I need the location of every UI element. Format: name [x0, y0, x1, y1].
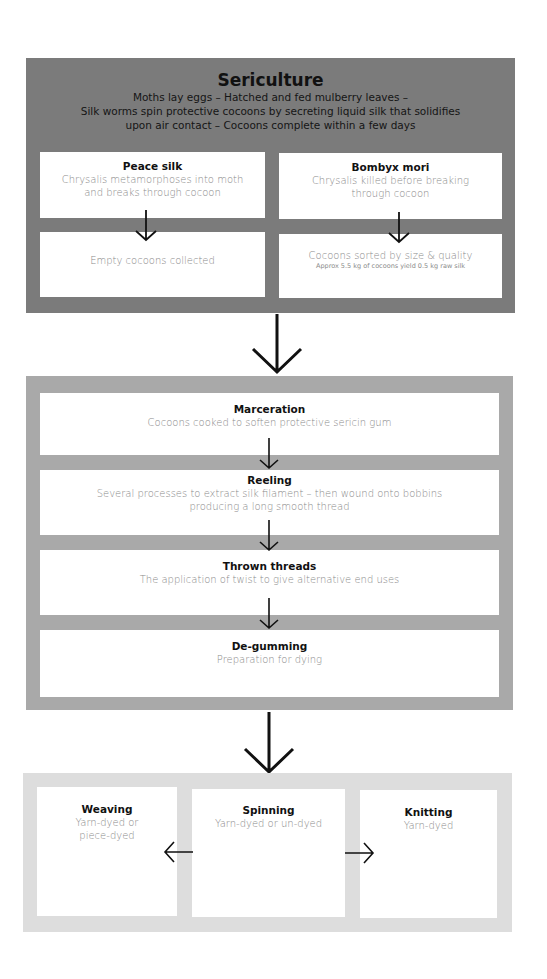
end-use-weaving: Weaving Yarn-dyed or piece-dyed	[37, 787, 177, 916]
bombyx-mori-desc: through cocoon	[279, 187, 502, 200]
sericulture-intro-line: Silk worms spin protective cocoons by se…	[26, 104, 515, 118]
arrow-down-icon	[250, 314, 304, 374]
peace-silk-box: Peace silk Chrysalis metamorphoses into …	[40, 152, 265, 218]
peace-silk-title: Peace silk	[40, 160, 265, 173]
end-use-desc: Yarn-dyed or un-dyed	[192, 817, 345, 830]
sericulture-header: Sericulture Moths lay eggs – Hatched and…	[26, 70, 515, 132]
bombyx-mori-desc: Chrysalis killed before breaking	[279, 174, 502, 187]
step-title: Reeling	[40, 474, 499, 487]
step-desc: The application of twist to give alterna…	[40, 573, 499, 586]
step-title: Thrown threads	[40, 560, 499, 573]
arrow-down-icon	[134, 210, 158, 242]
bombyx-mori-box: Bombyx mori Chrysalis killed before brea…	[279, 153, 502, 219]
arrow-right-icon	[345, 841, 375, 867]
step-title: De-gumming	[40, 640, 499, 653]
arrow-down-icon	[387, 212, 411, 244]
sericulture-title: Sericulture	[26, 70, 515, 90]
arrow-down-icon	[242, 712, 296, 774]
end-use-title: Spinning	[192, 804, 345, 817]
peace-silk-desc: and breaks through cocoon	[40, 186, 265, 199]
bombyx-mori-note: Approx 5.5 kg of cocoons yield 0.5 kg ra…	[279, 262, 502, 271]
bombyx-mori-title: Bombyx mori	[279, 161, 502, 174]
step-desc: Preparation for dying	[40, 653, 499, 666]
sericulture-intro-line: Moths lay eggs – Hatched and fed mulberr…	[26, 90, 515, 104]
end-use-spinning: Spinning Yarn-dyed or un-dyed	[192, 789, 345, 917]
step-desc: Several processes to extract silk filame…	[40, 487, 499, 500]
step-desc: Cocoons cooked to soften protective seri…	[40, 416, 499, 429]
arrow-down-icon	[258, 438, 280, 470]
sericulture-intro-line: upon air contact – Cocoons complete with…	[26, 118, 515, 132]
arrow-down-icon	[258, 520, 280, 552]
step-de-gumming: De-gumming Preparation for dying	[40, 630, 499, 697]
step-desc: producing a long smooth thread	[40, 500, 499, 513]
step-title: Marceration	[40, 403, 499, 416]
end-use-knitting: Knitting Yarn-dyed	[360, 790, 497, 918]
bombyx-mori-result: Cocoons sorted by size & quality	[279, 249, 502, 262]
end-use-title: Weaving	[37, 803, 177, 816]
end-use-title: Knitting	[360, 806, 497, 819]
end-use-desc: piece-dyed	[37, 829, 177, 842]
end-use-desc: Yarn-dyed or	[37, 816, 177, 829]
peace-silk-desc: Chrysalis metamorphoses into moth	[40, 173, 265, 186]
arrow-left-icon	[163, 840, 193, 866]
arrow-down-icon	[258, 598, 280, 630]
end-use-desc: Yarn-dyed	[360, 819, 497, 832]
peace-silk-result: Empty cocoons collected	[40, 254, 265, 267]
